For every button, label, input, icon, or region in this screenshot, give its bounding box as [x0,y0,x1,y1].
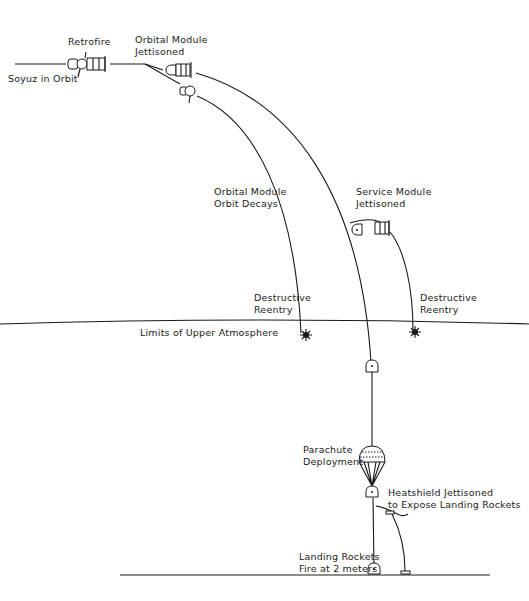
destructive-reentry-burst-icon [300,329,312,341]
label-destructive-right-2: Reentry [420,304,459,315]
descent-service-module-icon [166,62,191,78]
descent-capsule-icon [366,360,378,372]
label-upper-atmosphere: Limits of Upper Atmosphere [140,327,278,338]
service-module-icon [375,220,389,236]
label-parachute-1: Parachute [303,444,353,455]
reentry-diagram: Soyuz in Orbit Retrofire Orbital Module … [0,0,529,601]
service-module-trajectory [390,232,413,330]
descent-module-trajectory [196,73,371,362]
label-soyuz-in-orbit: Soyuz in Orbit [8,73,78,84]
descent-capsule-icon [366,486,378,497]
heatshield-icon [386,511,394,514]
label-destructive-right-1: Destructive [420,292,477,303]
heatshield-trajectory [392,514,405,571]
orbital-module-icon [180,86,195,103]
label-om-decays-2: Orbit Decays [214,198,278,209]
descent-module-icon [352,224,362,235]
label-destructive-left-2: Reentry [254,304,293,315]
label-om-jettisoned-2: Jettisoned [134,46,184,57]
label-sm-jettisoned-2: Jettisoned [355,198,405,209]
label-om-decays-1: Orbital Module [214,186,287,197]
upper-atmosphere-boundary [0,320,529,324]
destructive-reentry-burst-icon [409,326,421,338]
label-landing-1: Landing Rockets [299,551,380,562]
label-heatshield-2: to Expose Landing Rockets [388,499,521,510]
heatshield-landed-icon [401,571,410,574]
label-heatshield-1: Heatshield Jettisoned [388,487,493,498]
label-retrofire: Retrofire [68,36,111,47]
label-om-jettisoned-1: Orbital Module [135,34,208,45]
label-sm-jettisoned-1: Service Module [356,186,431,197]
label-parachute-2: Deployment [303,456,363,467]
label-landing-2: Fire at 2 meters [299,563,377,574]
label-destructive-left-1: Destructive [254,292,311,303]
